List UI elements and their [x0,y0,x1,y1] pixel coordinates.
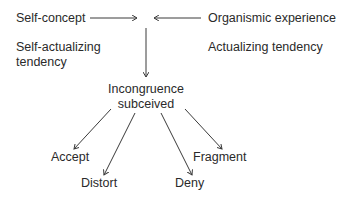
self-concept-label: Self-concept [16,11,85,26]
arrow-to-distort [104,113,135,175]
self-actualizing-line2: tendency [16,55,101,70]
incongruence-subceived-label: Incongruence subceived [106,82,186,112]
arrow-to-fragment [185,109,222,149]
arrow-to-accept [74,109,111,149]
actualizing-tendency-label: Actualizing tendency [208,40,323,55]
self-actualizing-line1: Self-actualizing [16,40,101,55]
outcome-deny: Deny [175,176,204,191]
self-actualizing-tendency-label: Self-actualizing tendency [16,40,101,70]
incongruence-line1: Incongruence [106,82,186,97]
incongruence-line2: subceived [106,97,186,112]
diagram-canvas: Self-concept Organismic experience Self-… [0,0,344,201]
outcome-fragment: Fragment [193,150,247,165]
outcome-distort: Distort [81,176,117,191]
arrow-to-deny [161,113,192,175]
outcome-accept: Accept [51,150,89,165]
organismic-experience-label: Organismic experience [208,11,336,26]
